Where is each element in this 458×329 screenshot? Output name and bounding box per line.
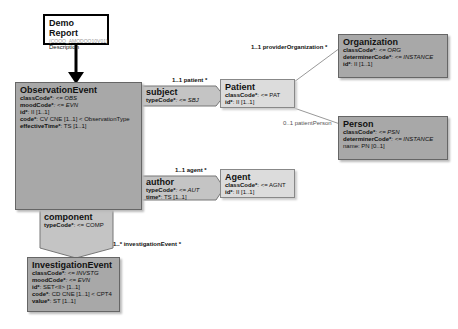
attr-row: classCode*: <= PSN bbox=[343, 129, 443, 136]
attr-row: id*: SET<II> [1..1] bbox=[32, 284, 115, 291]
investigation-event-class[interactable]: InvestigationEvent classCode*: <= INVSTG… bbox=[27, 257, 120, 312]
attr-row: id*: II [1..1] bbox=[225, 99, 290, 106]
attr-row: moodCode*: <= EVN bbox=[20, 102, 137, 109]
observation-event-title: ObservationEvent bbox=[20, 85, 137, 95]
demo-report-header[interactable]: Demo Report (COOO_AMODOO10V01) Descripti… bbox=[43, 14, 109, 45]
investigation-event-cardinality-label: 1..* investigationEvent * bbox=[113, 241, 181, 247]
attr-row: name: PN [0..1] bbox=[343, 143, 443, 150]
report-title: Demo Report bbox=[49, 18, 103, 38]
subject-title: subject bbox=[146, 87, 214, 97]
attr-row: moodCode*: <= EVN bbox=[32, 277, 115, 284]
attr-row: id*: II [1..1] bbox=[20, 109, 137, 116]
attr-row: typeCode*: <= COMP bbox=[44, 222, 109, 229]
attr-row: code*: CV CNE [1..1] < ObservationType bbox=[20, 116, 137, 123]
attr-row: typeCode*: <= SBJ bbox=[146, 97, 214, 104]
attr-row: classCode*: <= OBS bbox=[20, 95, 137, 102]
attr-row: effectiveTime*: TS [1..1] bbox=[20, 123, 137, 130]
author-relationship[interactable]: author typeCode*: <= AUT time*: TS [1..1… bbox=[142, 176, 218, 200]
subject-relationship[interactable]: subject typeCode*: <= SBJ bbox=[142, 86, 218, 106]
attr-row: time*: TS [1..1] bbox=[146, 194, 214, 201]
attr-row: classCode*: <= INVSTG bbox=[32, 270, 115, 277]
investigation-event-title: InvestigationEvent bbox=[32, 260, 115, 270]
attr-row: id*: II [1..1] bbox=[343, 61, 443, 68]
attr-row: classCode*: <= PAT bbox=[225, 92, 290, 99]
component-relationship[interactable]: component typeCode*: <= COMP bbox=[40, 210, 113, 240]
patient-person-label: 0..1 patientPerson bbox=[283, 120, 332, 126]
subject-cardinality-label: 1..1 patient * bbox=[172, 77, 207, 83]
attr-row: code*: CD CNE [1..1] < CPT4 bbox=[32, 291, 115, 298]
attr-row: classCode*: <= ORG bbox=[343, 47, 443, 54]
attr-row: value*: ST [1..1] bbox=[32, 298, 115, 305]
agent-class[interactable]: Agent classCode*: <= AGNT id*: II [1..1] bbox=[220, 169, 295, 198]
provider-organization-label: 1..1 providerOrganization * bbox=[251, 44, 327, 50]
agent-title: Agent bbox=[225, 172, 290, 182]
attr-row: classCode*: <= AGNT bbox=[225, 182, 290, 189]
organization-class[interactable]: Organization classCode*: <= ORG determin… bbox=[338, 34, 448, 78]
attr-row: typeCode*: <= AUT bbox=[146, 187, 214, 194]
component-title: component bbox=[44, 212, 109, 222]
attr-row: id*: II [1..1] bbox=[225, 189, 290, 196]
report-description: Description bbox=[49, 44, 103, 51]
person-title: Person bbox=[343, 119, 443, 129]
patient-class[interactable]: Patient classCode*: <= PAT id*: II [1..1… bbox=[220, 79, 295, 108]
attr-row: determinerCode*: <= INSTANCE bbox=[343, 54, 443, 61]
author-title: author bbox=[146, 177, 214, 187]
patient-title: Patient bbox=[225, 82, 290, 92]
organization-title: Organization bbox=[343, 37, 443, 47]
attr-row: determinerCode*: <= INSTANCE bbox=[343, 136, 443, 143]
observation-event-class[interactable]: ObservationEvent classCode*: <= OBS mood… bbox=[15, 82, 142, 210]
agent-cardinality-label: 1..1 agent * bbox=[175, 167, 207, 173]
person-class[interactable]: Person classCode*: <= PSN determinerCode… bbox=[338, 116, 448, 160]
